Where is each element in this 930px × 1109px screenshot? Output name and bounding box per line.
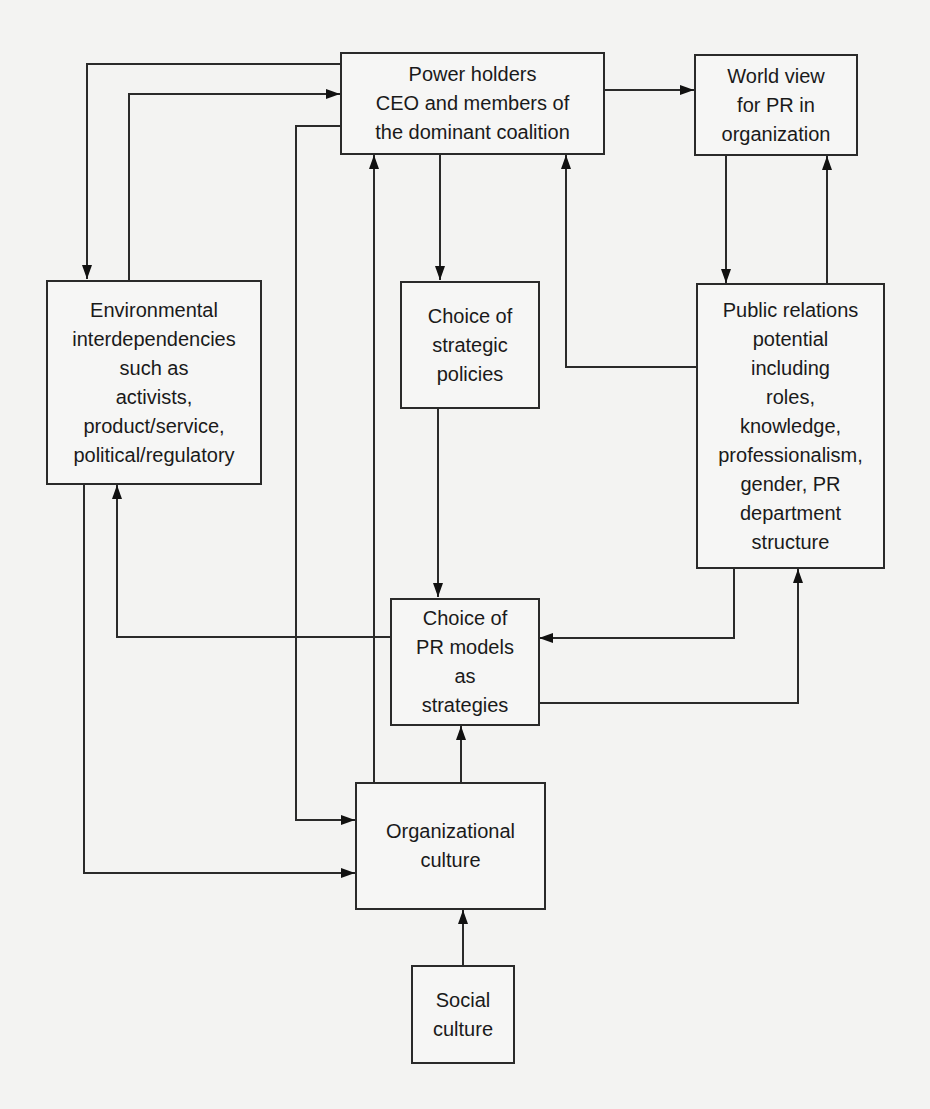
node-line: product/service, bbox=[83, 412, 224, 441]
node-line: World view bbox=[727, 62, 824, 91]
node-line: roles, bbox=[766, 383, 815, 412]
node-line: including bbox=[751, 354, 830, 383]
node-line: Power holders bbox=[409, 60, 537, 89]
node-line: culture bbox=[433, 1015, 493, 1044]
node-line: potential bbox=[753, 325, 829, 354]
node-line: strategies bbox=[422, 691, 509, 720]
node-pr-potential: Public relations potential including rol… bbox=[696, 283, 885, 569]
node-line: such as bbox=[120, 354, 189, 383]
node-line: Organizational bbox=[386, 817, 515, 846]
node-line: political/regulatory bbox=[73, 441, 234, 470]
node-pr-models: Choice of PR models as strategies bbox=[390, 598, 540, 726]
arrow-prmodels-to-potential bbox=[539, 569, 798, 703]
node-line: professionalism, bbox=[718, 441, 863, 470]
node-line: activists, bbox=[116, 383, 193, 412]
node-line: Choice of bbox=[428, 302, 513, 331]
arrow-potential-to-prmodels bbox=[539, 568, 734, 638]
node-power-holders: Power holders CEO and members of the dom… bbox=[340, 52, 605, 155]
node-line: interdependencies bbox=[72, 325, 235, 354]
node-line: organization bbox=[722, 120, 831, 149]
node-line: knowledge, bbox=[740, 412, 841, 441]
node-line: structure bbox=[752, 528, 830, 557]
node-line: gender, PR bbox=[740, 470, 840, 499]
node-line: CEO and members of bbox=[376, 89, 569, 118]
arrow-environmental-to-power bbox=[129, 94, 340, 280]
node-line: Public relations bbox=[723, 296, 859, 325]
arrow-power-to-environmental bbox=[87, 64, 340, 279]
node-line: for PR in bbox=[737, 91, 815, 120]
node-line: Choice of bbox=[423, 604, 508, 633]
node-line: the dominant coalition bbox=[375, 118, 570, 147]
arrow-potential-to-power bbox=[566, 155, 697, 367]
node-line: culture bbox=[420, 846, 480, 875]
node-strategic-policies: Choice of strategic policies bbox=[400, 281, 540, 409]
node-world-view: World view for PR in organization bbox=[694, 54, 858, 156]
node-line: Social bbox=[436, 986, 490, 1015]
node-social-culture: Social culture bbox=[411, 965, 515, 1064]
node-line: strategic bbox=[432, 331, 508, 360]
node-line: department bbox=[740, 499, 841, 528]
arrow-prmodels-to-environmental bbox=[117, 485, 390, 637]
node-line: PR models bbox=[416, 633, 514, 662]
node-line: Environmental bbox=[90, 296, 218, 325]
arrow-environmental-to-orgculture bbox=[84, 485, 355, 873]
node-line: as bbox=[454, 662, 475, 691]
node-organizational-culture: Organizational culture bbox=[355, 782, 546, 910]
node-environmental-interdependencies: Environmental interdependencies such as … bbox=[46, 280, 262, 485]
arrow-power-to-orgculture bbox=[296, 126, 355, 820]
node-line: policies bbox=[437, 360, 504, 389]
